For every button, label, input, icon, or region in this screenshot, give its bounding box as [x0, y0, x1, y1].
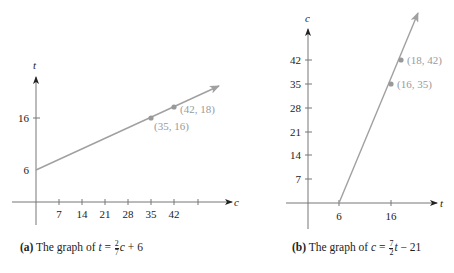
- line-series: [36, 86, 219, 170]
- y-axis-label: t: [33, 59, 37, 71]
- fraction: 27: [115, 240, 119, 257]
- data-point: [148, 115, 153, 120]
- line-series: [339, 13, 418, 203]
- data-point: [398, 57, 403, 62]
- caption-var: c: [120, 241, 125, 253]
- point-label: (16, 35): [397, 78, 432, 91]
- y-tick-label: 7: [296, 173, 302, 185]
- x-tick-label: 7: [56, 208, 62, 220]
- x-tick-label: 16: [386, 210, 398, 222]
- x-axis-label: t: [440, 197, 444, 209]
- fraction: 72: [389, 240, 393, 257]
- caption-text: The graph of: [309, 241, 368, 253]
- caption-text: The graph of: [36, 241, 95, 253]
- y-tick-label: 6: [24, 164, 30, 176]
- caption-rest: − 21: [400, 241, 421, 253]
- data-point: [171, 104, 176, 109]
- figure: t c 7 14 21 28 35 42 16 6 (35, 16) (42, …: [0, 0, 454, 273]
- x-axis-label: c: [234, 196, 239, 208]
- caption-a: (a) The graph of t = 27c + 6: [20, 240, 143, 257]
- x-tick-label: 42: [169, 208, 180, 220]
- x-tick-label: 21: [100, 208, 111, 220]
- x-tick-label: 14: [77, 208, 89, 220]
- caption-prefix: (a): [20, 241, 33, 253]
- y-tick-label: 42: [290, 54, 301, 66]
- caption-lhs: c: [371, 241, 376, 253]
- y-tick-label: 28: [290, 102, 302, 114]
- y-axis-label: c: [305, 12, 310, 24]
- y-tick-label: 21: [290, 126, 301, 138]
- point-label: (35, 16): [154, 120, 189, 133]
- y-tick-label: 14: [290, 149, 302, 161]
- chart-a: t c 7 14 21 28 35 42 16 6 (35, 16) (42, …: [12, 59, 239, 225]
- caption-rest: + 6: [128, 241, 143, 253]
- x-tick-label: 28: [123, 208, 135, 220]
- point-label: (18, 42): [407, 54, 442, 67]
- y-tick-label: 16: [18, 112, 30, 124]
- chart-b: c t 6 16 42 35 28 21 14 7 (16, 35) (18, …: [286, 12, 444, 229]
- x-tick-label: 6: [336, 210, 342, 222]
- caption-var: t: [394, 241, 397, 253]
- caption-b: (b) The graph of c = 72t − 21: [292, 240, 421, 257]
- y-tick-label: 35: [290, 78, 302, 90]
- data-point: [388, 81, 393, 86]
- caption-prefix: (b): [292, 241, 306, 253]
- x-tick-label: 35: [146, 208, 158, 220]
- caption-lhs: t: [98, 241, 101, 253]
- point-label: (42, 18): [180, 103, 215, 116]
